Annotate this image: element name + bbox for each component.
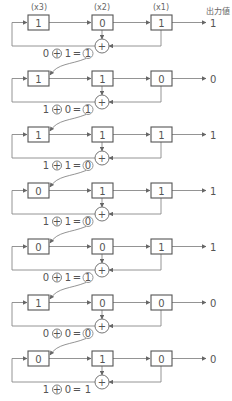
feedback-return-line [12, 359, 95, 383]
formula-equals: = [73, 384, 81, 395]
result-connector-curve [50, 115, 86, 132]
register-value-x2: 0 [99, 18, 105, 29]
register-value-x3: 0 [35, 354, 41, 365]
result-connector-curve [50, 339, 86, 356]
output-value: 0 [210, 298, 216, 309]
formula-operand-b: 1 [65, 216, 71, 227]
formula-result: 1 [85, 272, 91, 283]
formula-xor-symbol: + [53, 272, 61, 283]
xor-symbol: + [98, 209, 106, 220]
feedback-return-line [12, 303, 95, 327]
formula-xor-symbol: + [53, 384, 61, 395]
formula-result: 0 [85, 160, 91, 171]
result-connector-curve [50, 227, 86, 244]
register-value-x2: 1 [99, 74, 105, 85]
formula-operand-a: 1 [43, 104, 49, 115]
formula-result: 1 [85, 384, 91, 395]
stage-3: 111+11+1=0 [12, 127, 216, 187]
register-value-x1: 1 [158, 186, 164, 197]
output-value: 0 [210, 354, 216, 365]
register-value-x3: 0 [35, 242, 41, 253]
stage-5: 001+10+1=1 [12, 239, 216, 299]
feedback-x1-to-adder [109, 254, 161, 270]
output-value: 1 [210, 130, 216, 141]
feedback-x1-to-adder [109, 198, 161, 214]
formula-xor-symbol: + [53, 104, 61, 115]
formula-equals: = [73, 272, 81, 283]
formula-operand-b: 1 [65, 48, 71, 59]
xor-symbol: + [98, 321, 106, 332]
register-value-x1: 0 [158, 298, 164, 309]
output-value: 1 [210, 186, 216, 197]
formula-xor-symbol: + [53, 48, 61, 59]
formula-operand-b: 0 [65, 104, 71, 115]
output-label: 出力値 [206, 6, 230, 16]
formula-equals: = [73, 216, 81, 227]
formula-operand-a: 0 [43, 328, 49, 339]
formula-operand-b: 0 [65, 328, 71, 339]
result-connector-curve [50, 283, 86, 300]
register-value-x3: 1 [35, 18, 41, 29]
feedback-x1-to-adder [109, 30, 161, 46]
formula-operand-b: 1 [65, 272, 71, 283]
register-value-x2: 1 [99, 186, 105, 197]
register-label-x1: (x1) [153, 3, 169, 12]
output-value: 1 [210, 18, 216, 29]
stage-1: 101+10+1=1 [12, 15, 216, 75]
register-value-x3: 1 [35, 130, 41, 141]
feedback-return-line [12, 135, 95, 159]
formula-operand-a: 0 [43, 48, 49, 59]
formula-operand-b: 1 [65, 160, 71, 171]
stage-2: 110+01+0=1 [12, 71, 216, 131]
formula-equals: = [73, 104, 81, 115]
register-label-x2: (x2) [94, 3, 110, 12]
feedback-return-line [12, 23, 95, 47]
register-value-x1: 1 [158, 242, 164, 253]
feedback-return-line [12, 191, 95, 215]
lfsr-diagram: (x3) (x2) (x1) 出力値 101+10+1=1110+01+0=11… [0, 0, 232, 401]
formula-xor-symbol: + [53, 328, 61, 339]
stage-7: 010+01+0=1 [12, 351, 216, 395]
feedback-x1-to-adder [109, 142, 161, 158]
formula-result: 0 [85, 328, 91, 339]
xor-symbol: + [98, 97, 106, 108]
register-value-x1: 0 [158, 74, 164, 85]
feedback-x1-to-adder [109, 310, 161, 326]
formula-xor-symbol: + [53, 160, 61, 171]
formula-equals: = [73, 48, 81, 59]
output-value: 0 [210, 74, 216, 85]
register-value-x1: 0 [158, 354, 164, 365]
register-value-x1: 1 [158, 18, 164, 29]
output-value: 1 [210, 242, 216, 253]
xor-symbol: + [98, 153, 106, 164]
formula-result: 0 [85, 216, 91, 227]
xor-symbol: + [98, 377, 106, 388]
xor-symbol: + [98, 265, 106, 276]
register-value-x3: 1 [35, 298, 41, 309]
feedback-return-line [12, 247, 95, 271]
xor-symbol: + [98, 41, 106, 52]
register-value-x2: 1 [99, 130, 105, 141]
formula-result: 1 [85, 48, 91, 59]
formula-xor-symbol: + [53, 216, 61, 227]
formula-equals: = [73, 160, 81, 171]
formula-operand-a: 1 [43, 160, 49, 171]
register-value-x2: 1 [99, 354, 105, 365]
register-value-x3: 1 [35, 74, 41, 85]
register-value-x2: 0 [99, 298, 105, 309]
formula-operand-b: 0 [65, 384, 71, 395]
feedback-return-line [12, 79, 95, 103]
formula-result: 1 [85, 104, 91, 115]
formula-operand-a: 1 [43, 384, 49, 395]
formula-operand-a: 0 [43, 272, 49, 283]
register-value-x2: 0 [99, 242, 105, 253]
formula-operand-a: 1 [43, 216, 49, 227]
result-connector-curve [50, 59, 86, 76]
register-value-x3: 0 [35, 186, 41, 197]
feedback-x1-to-adder [109, 366, 161, 382]
stage-4: 011+11+1=0 [12, 183, 216, 243]
feedback-x1-to-adder [109, 86, 161, 102]
formula-equals: = [73, 328, 81, 339]
register-value-x1: 1 [158, 130, 164, 141]
stage-6: 100+00+0=0 [12, 295, 216, 355]
